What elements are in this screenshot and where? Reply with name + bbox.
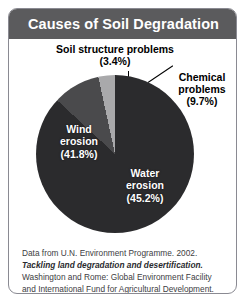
callout-soil-structure-problems: Soil structure problems (3.4%): [33, 44, 197, 68]
figure-card: Causes of Soil Degradation Soil structur…: [8, 8, 237, 294]
wind-label-value: (41.8%): [42, 148, 116, 160]
page-title: Causes of Soil Degradation: [28, 16, 219, 32]
water-label-value: (45.2%): [108, 192, 182, 204]
water-label-line1: Water: [108, 167, 182, 179]
callout-soil-structure-name: Soil structure problems: [33, 44, 197, 56]
wind-label-line2: erosion: [42, 135, 116, 147]
wind-label-line1: Wind: [42, 123, 116, 135]
figure-caption: Data from U.N. Environment Programme. 20…: [9, 245, 237, 294]
figure-title-bar: Causes of Soil Degradation: [8, 8, 237, 39]
pie-slice-label-water-erosion: Water erosion (45.2%): [108, 167, 182, 204]
pie-chart-plot-area: Soil structure problems (3.4%) Chemical …: [9, 40, 237, 244]
caption-source-title: Tackling land degradation and desertific…: [22, 260, 203, 270]
pie-slice-label-wind-erosion: Wind erosion (41.8%): [42, 123, 116, 160]
caption-part-1: Data from U.N. Environment Programme. 20…: [22, 248, 197, 258]
water-label-line2: erosion: [108, 179, 182, 191]
pie-chart: Wind erosion (41.8%) Water erosion (45.2…: [36, 75, 194, 233]
caption-part-2: Washington and Rome: Global Environment …: [22, 272, 214, 294]
